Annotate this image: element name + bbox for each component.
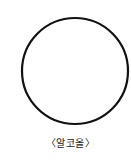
diagram-figure: 〈알코올〉: [0, 0, 131, 165]
figure-caption: 〈알코올〉: [0, 135, 131, 150]
circle-shape: [0, 0, 131, 135]
